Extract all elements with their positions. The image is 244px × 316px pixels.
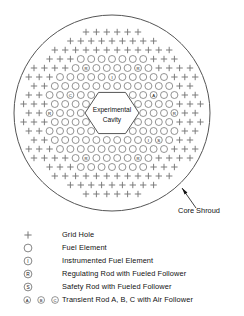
reactor-core-diagram: RRICARRISRRExperimentalCavityCore Shroud — [0, 0, 244, 228]
core-position-grid-hole — [83, 191, 89, 197]
core-position-grid-hole — [192, 92, 198, 98]
core-position-fuel-element — [72, 101, 79, 108]
core-position-grid-hole — [156, 173, 162, 179]
core-position-grid-hole — [41, 137, 47, 143]
core-position-grid-hole — [67, 56, 73, 62]
svg-text:R: R — [26, 271, 30, 276]
core-position-fuel-element — [72, 65, 79, 72]
core-position-fuel-element — [150, 110, 157, 117]
legend-item: Fuel Element — [0, 241, 244, 254]
core-position-grid-hole — [114, 29, 120, 35]
core-position-grid-hole — [104, 29, 110, 35]
core-position-fuel-element — [51, 137, 58, 144]
core-position-grid-hole — [187, 83, 193, 89]
core-position-fuel-element — [124, 83, 131, 90]
core-position-fuel-element — [83, 101, 90, 108]
core-position-grid-hole — [62, 65, 68, 71]
core-position-grid-hole — [182, 146, 188, 152]
svg-text:S: S — [26, 284, 29, 289]
core-position-fuel-element — [51, 119, 58, 126]
core-position-fuel-element — [72, 119, 79, 126]
core-position-fuel-element — [77, 74, 84, 81]
core-position-fuel-element — [88, 92, 95, 99]
core-position-grid-hole — [114, 191, 120, 197]
core-position-fuel-element — [145, 155, 152, 162]
core-position-fuel-element — [161, 146, 168, 153]
core-position-fuel-element — [129, 74, 136, 81]
core-position-grid-hole — [124, 191, 130, 197]
core-position-grid-hole — [31, 101, 37, 107]
core-position-grid-hole — [72, 47, 78, 53]
core-position-fuel-element — [166, 137, 173, 144]
core-position-fuel-element — [145, 83, 152, 90]
core-position-grid-hole — [182, 74, 188, 80]
core-position-grid-hole — [114, 173, 120, 179]
core-position-fuel-element — [140, 146, 147, 153]
core-position-grid-hole — [78, 182, 84, 188]
core-position-grid-hole — [93, 29, 99, 35]
core-position-fuel-element — [93, 155, 100, 162]
core-position-fuel-element — [72, 137, 79, 144]
core-position-fuel-element — [77, 128, 84, 135]
core-position-grid-hole — [130, 38, 136, 44]
core-shroud-label: Core Shroud — [178, 206, 220, 215]
core-position-fuel-element — [155, 101, 162, 108]
core-position-grid-hole — [192, 74, 198, 80]
core-position-grid-hole — [119, 38, 125, 44]
core-position-fuel-element — [93, 137, 100, 144]
experimental-cavity: ExperimentalCavity — [85, 92, 139, 133]
core-position-fuel-element — [161, 74, 168, 81]
core-position-grid-hole — [36, 74, 42, 80]
core-position-fuel-element — [62, 101, 69, 108]
core-position-i-rod: I — [145, 137, 152, 144]
core-position-fuel-element — [150, 128, 157, 135]
core-position-fuel-element — [114, 155, 121, 162]
core-position-fuel-element — [77, 164, 84, 171]
core-position-fuel-element — [88, 164, 95, 171]
core-position-grid-hole — [67, 182, 73, 188]
svg-text:R: R — [173, 111, 176, 116]
core-position-fuel-element — [57, 128, 64, 135]
core-position-fuel-element — [114, 83, 121, 90]
core-position-a-rod: A — [150, 92, 157, 99]
core-position-grid-hole — [176, 137, 182, 143]
core-position-fuel-element — [129, 128, 136, 135]
core-position-fuel-element — [93, 65, 100, 72]
core-position-fuel-element — [124, 65, 131, 72]
core-position-grid-hole — [150, 164, 156, 170]
core-position-grid-hole — [88, 182, 94, 188]
core-position-fuel-element — [135, 101, 142, 108]
legend-symbol-instrumented-fuel-element: I — [0, 255, 62, 267]
core-position-fuel-element — [83, 119, 90, 126]
core-position-fuel-element — [103, 65, 110, 72]
legend-item: Grid Hole — [0, 228, 244, 241]
core-position-grid-hole — [83, 173, 89, 179]
core-position-grid-hole — [26, 128, 32, 134]
core-position-fuel-element — [77, 56, 84, 63]
core-position-grid-hole — [62, 47, 68, 53]
core-position-grid-hole — [109, 182, 115, 188]
core-position-fuel-element — [140, 110, 147, 117]
core-position-grid-hole — [26, 110, 32, 116]
core-position-grid-hole — [36, 146, 42, 152]
core-position-grid-hole — [109, 38, 115, 44]
core-position-grid-hole — [135, 47, 141, 53]
core-position-c-rod: C — [67, 92, 74, 99]
core-position-grid-hole — [171, 146, 177, 152]
core-position-grid-hole — [192, 146, 198, 152]
core-position-grid-hole — [104, 173, 110, 179]
core-position-fuel-element — [88, 146, 95, 153]
core-position-grid-hole — [57, 164, 63, 170]
core-position-grid-hole — [62, 173, 68, 179]
svg-text:C: C — [69, 93, 72, 98]
core-position-fuel-element — [155, 119, 162, 126]
core-position-fuel-element — [77, 146, 84, 153]
core-position-grid-hole — [176, 155, 182, 161]
svg-text:R: R — [136, 156, 139, 161]
core-position-grid-hole — [62, 155, 68, 161]
legend-item: S Safety Rod with Fueled Follower — [0, 280, 244, 293]
core-position-grid-hole — [98, 182, 104, 188]
core-position-fuel-element — [83, 137, 90, 144]
core-position-grid-hole — [26, 74, 32, 80]
core-position-fuel-element — [62, 119, 69, 126]
